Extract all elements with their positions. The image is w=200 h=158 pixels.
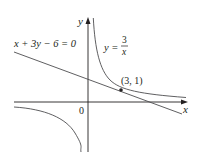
tangent-line [14, 52, 182, 114]
hyperbola-left-branch [14, 107, 81, 152]
tangent-point [119, 88, 123, 92]
curve-label-denominator: x [121, 47, 127, 57]
y-axis-arrow-icon [86, 17, 91, 24]
curve-label-lhs: y = [103, 42, 118, 53]
point-label: (3, 1) [121, 75, 143, 87]
tangent-line-label: x + 3y − 6 = 0 [13, 38, 77, 49]
graph-figure: y x 0 x + 3y − 6 = 0 y = 3 x (3, 1) [0, 0, 200, 158]
origin-label: 0 [79, 105, 84, 116]
y-axis-label: y [77, 15, 83, 27]
x-axis-label: x [182, 103, 188, 115]
curve-label-numerator: 3 [122, 35, 127, 45]
